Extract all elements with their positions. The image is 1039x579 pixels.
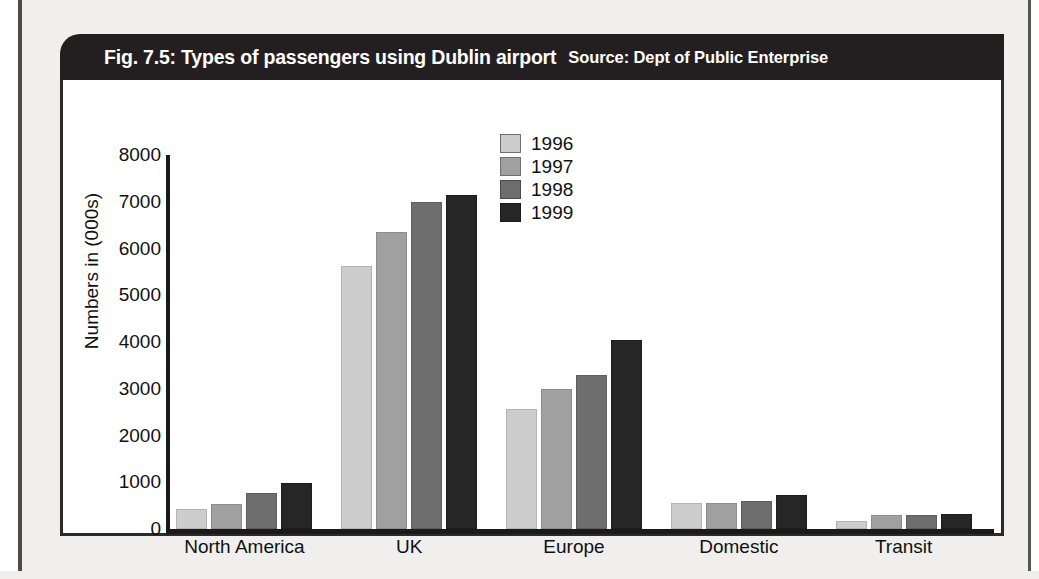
chart-legend: 1996199719981999 [500,132,650,224]
page-left-rule [18,0,22,579]
y-axis-tick: 6000 [93,238,161,260]
bar[interactable] [611,340,642,529]
bar-group [176,155,312,529]
y-axis-tick: 3000 [93,378,161,400]
bar[interactable] [281,483,312,529]
y-axis-tick: 2000 [93,425,161,447]
figure-source: Source: Dept of Public Enterprise [568,48,828,67]
figure-title-bar: Fig. 7.5: Types of passengers using Dubl… [60,34,1004,80]
bar[interactable] [941,514,972,529]
y-axis-tick: 5000 [93,284,161,306]
y-axis-tick: 7000 [93,191,161,213]
legend-swatch-icon [500,134,521,153]
plot-inner: Numbers in (000s) 0100020003000400050006… [63,80,1001,533]
bar[interactable] [176,509,207,529]
bar[interactable] [376,232,407,529]
bar[interactable] [341,266,372,529]
legend-item[interactable]: 1996 [500,132,650,155]
bar[interactable] [871,515,902,529]
legend-item[interactable]: 1998 [500,178,650,201]
bar-group [836,155,972,529]
legend-swatch-icon [500,203,521,222]
bar[interactable] [706,503,737,529]
bar[interactable] [411,202,442,529]
page-right-margin [1031,0,1039,579]
legend-label: 1999 [531,203,573,222]
x-axis-category-label: UK [396,536,422,558]
x-axis-category-label: North America [184,536,304,558]
x-axis-category-label: Transit [875,536,932,558]
figure-title: Fig. 7.5: Types of passengers using Dubl… [104,46,556,69]
page-left-margin [0,0,18,579]
bar[interactable] [671,503,702,529]
bar[interactable] [541,389,572,529]
plot-panel: Numbers in (000s) 0100020003000400050006… [60,80,1004,536]
x-axis-category-labels: North AmericaUKEuropeDomesticTransit [170,536,994,570]
bar[interactable] [446,195,477,529]
bar[interactable] [211,504,242,529]
figure-container: Fig. 7.5: Types of passengers using Dubl… [60,34,1004,536]
bar[interactable] [576,375,607,529]
bar[interactable] [506,409,537,529]
x-axis-category-label: Europe [543,536,604,558]
legend-item[interactable]: 1997 [500,155,650,178]
bar[interactable] [906,515,937,529]
legend-item[interactable]: 1999 [500,201,650,224]
legend-label: 1997 [531,157,573,176]
bar[interactable] [776,495,807,529]
bar-group [341,155,477,529]
y-axis-tick: 1000 [93,471,161,493]
bar[interactable] [836,521,867,529]
x-axis-category-label: Domestic [699,536,778,558]
y-axis-tick: 0 [93,518,161,540]
legend-label: 1996 [531,134,573,153]
legend-swatch-icon [500,157,521,176]
bar-group [671,155,807,529]
legend-label: 1998 [531,180,573,199]
x-axis-line [166,529,994,534]
y-axis-tick-labels: 010002000300040005000600070008000 [93,80,161,533]
y-axis-tick: 8000 [93,144,161,166]
legend-swatch-icon [500,180,521,199]
bar[interactable] [246,493,277,529]
y-axis-tick: 4000 [93,331,161,353]
bar[interactable] [741,501,772,529]
page-bottom-margin [0,571,1039,579]
